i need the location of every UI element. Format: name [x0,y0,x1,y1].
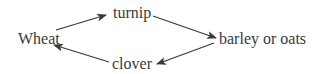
node-barley-or-oats: barley or oats [219,30,306,48]
edge-clover-to-wheat [54,45,109,62]
edge-barley-to-clover [157,43,214,64]
edge-wheat-to-turnip [56,15,106,30]
node-clover: clover [112,55,153,72]
crop-rotation-diagram: Wheat turnip barley or oats clover [0,0,322,74]
node-turnip: turnip [113,4,151,22]
node-wheat: Wheat [18,30,60,47]
edge-turnip-to-barley [153,16,216,38]
